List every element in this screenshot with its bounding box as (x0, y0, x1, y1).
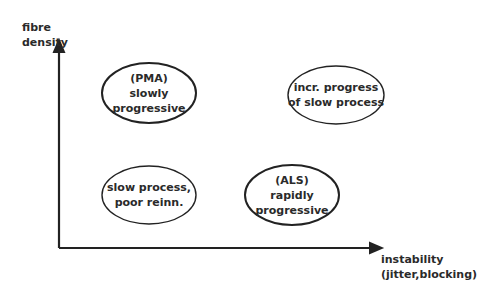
y-axis-label: fibre density (22, 20, 68, 50)
y-axis-label-line2: density (22, 35, 68, 50)
node-text-line2: of slow process (288, 95, 384, 110)
node-text-line2: poor reinn. (115, 195, 184, 210)
x-axis-label-line1: instability (381, 252, 477, 267)
x-axis-label: instability (jitter,blocking) (381, 252, 477, 282)
x-axis-label-line2: (jitter,blocking) (381, 267, 477, 282)
node-text-line3: progressive (255, 203, 328, 218)
quadrant-pma: (PMA) slowly progressive (102, 63, 196, 123)
node-text-line1: slow process, (107, 180, 191, 195)
node-text-line3: progressive (112, 101, 185, 116)
quadrant-incr-progress: incr. progress of slow process (288, 66, 384, 124)
node-text-line1: incr. progress (294, 80, 379, 95)
node-text-line1: (PMA) (130, 71, 168, 86)
y-axis-label-line1: fibre (22, 20, 68, 35)
quadrant-als: (ALS) rapidly progressive (245, 165, 339, 225)
node-text-line2: rapidly (270, 188, 313, 203)
node-text-line2: slowly (130, 86, 169, 101)
quadrant-slow-process: slow process, poor reinn. (102, 166, 196, 224)
node-text-line1: (ALS) (275, 173, 309, 188)
